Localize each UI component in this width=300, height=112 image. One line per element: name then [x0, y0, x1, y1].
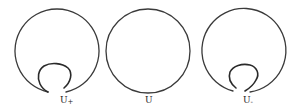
- panel-u-minus: [202, 8, 286, 92]
- panel-u-plus: [15, 9, 99, 92]
- panel-u: [106, 9, 190, 93]
- label-u-plus-subscript: +: [68, 98, 74, 106]
- outer-curve-u-minus: [202, 8, 286, 92]
- outer-curve-u-plus: [15, 9, 99, 92]
- label-u-minus-base: U: [243, 95, 251, 105]
- inner-loop-u-plus: [38, 64, 70, 92]
- label-u-minus-subscript: -: [251, 98, 253, 106]
- inner-loop-u-minus: [229, 64, 257, 91]
- label-u-plus: U+: [60, 96, 73, 106]
- label-u: U: [145, 96, 153, 105]
- label-u-minus: U-: [243, 96, 253, 106]
- label-u-plus-base: U: [60, 95, 68, 105]
- label-u-base: U: [145, 95, 153, 105]
- outer-circle-u: [106, 9, 190, 93]
